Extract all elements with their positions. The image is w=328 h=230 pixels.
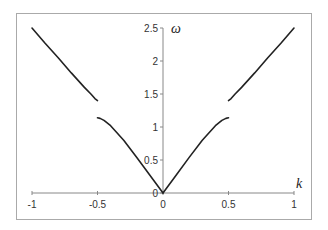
- y-tick-label: 1.5: [144, 89, 158, 100]
- x-tick-label: 1: [291, 199, 297, 210]
- dispersion-chart: -1-0.500.5100.511.522.5 ω k: [0, 0, 328, 230]
- x-tick-label: 0.5: [222, 199, 236, 210]
- y-tick-label: 2: [152, 56, 158, 67]
- y-tick-label: 0.5: [144, 155, 158, 166]
- y-tick-label: 1: [152, 122, 158, 133]
- x-axis-label: k: [296, 176, 303, 191]
- y-tick-label: 2.5: [144, 23, 158, 34]
- chart-frame: [17, 14, 312, 220]
- y-tick-label: 0: [152, 188, 158, 199]
- x-tick-label: -0.5: [89, 199, 107, 210]
- y-axis-label: ω: [171, 21, 181, 36]
- x-tick-label: 0: [160, 199, 166, 210]
- x-tick-label: -1: [28, 199, 37, 210]
